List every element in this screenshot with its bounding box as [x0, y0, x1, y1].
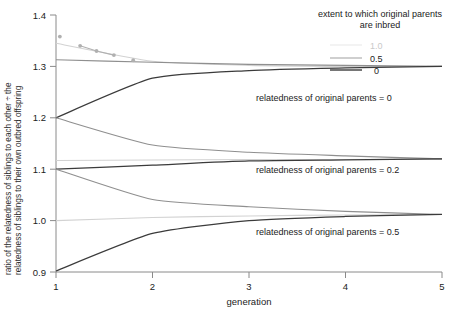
series-line — [56, 214, 442, 271]
y-tick-label: 1.2 — [33, 112, 46, 123]
annotation-relatedness-05: relatedness of original parents = 0.5 — [256, 227, 399, 237]
faint-trace-marker — [131, 58, 135, 62]
x-axis-ticks: 1 2 3 4 5 — [53, 272, 444, 292]
y-tick-label: 1.0 — [33, 215, 46, 226]
legend-label-3: 0 — [374, 66, 379, 76]
legend-title-line1: extent to which original parents — [318, 9, 443, 19]
y-axis-title-line1: ratio of the relatedness of siblings to … — [4, 82, 13, 275]
y-tick-label: 1.1 — [33, 164, 46, 175]
y-axis-ticks: 1.4 1.3 1.2 1.1 1.0 0.9 — [33, 10, 56, 278]
annotation-relatedness-02: relatedness of original parents = 0.2 — [256, 165, 399, 175]
faint-trace-marker — [58, 35, 62, 39]
faint-trace-marker — [95, 49, 99, 53]
y-tick-label: 1.3 — [33, 61, 46, 72]
y-axis-title: ratio of the relatedness of siblings to … — [4, 82, 23, 275]
faint-trace-marker — [112, 53, 116, 57]
legend-label-2: 0.5 — [370, 54, 383, 64]
faint-marker-trace — [58, 35, 135, 62]
x-axis-title: generation — [227, 296, 272, 307]
y-tick-label: 0.9 — [33, 267, 46, 278]
faint-trace-segment — [97, 51, 114, 55]
faint-trace-marker — [78, 44, 82, 48]
x-tick-label: 4 — [343, 281, 348, 292]
x-tick-label: 2 — [150, 281, 155, 292]
line-chart: ratio of the relatedness of siblings to … — [0, 0, 451, 318]
x-tick-label: 5 — [439, 281, 444, 292]
series-line — [56, 169, 442, 214]
chart-figure: ratio of the relatedness of siblings to … — [0, 0, 451, 318]
x-tick-label: 3 — [246, 281, 251, 292]
y-tick-label: 1.4 — [33, 10, 46, 21]
x-tick-label: 1 — [53, 281, 58, 292]
series-line — [56, 118, 442, 159]
legend-title-line2: are inbred — [360, 20, 401, 30]
annotation-relatedness-0: relatedness of original parents = 0 — [256, 93, 392, 103]
y-axis-title-line2: relatedness of siblings to their own out… — [14, 85, 23, 275]
legend-label-1: 1.0 — [370, 41, 383, 51]
